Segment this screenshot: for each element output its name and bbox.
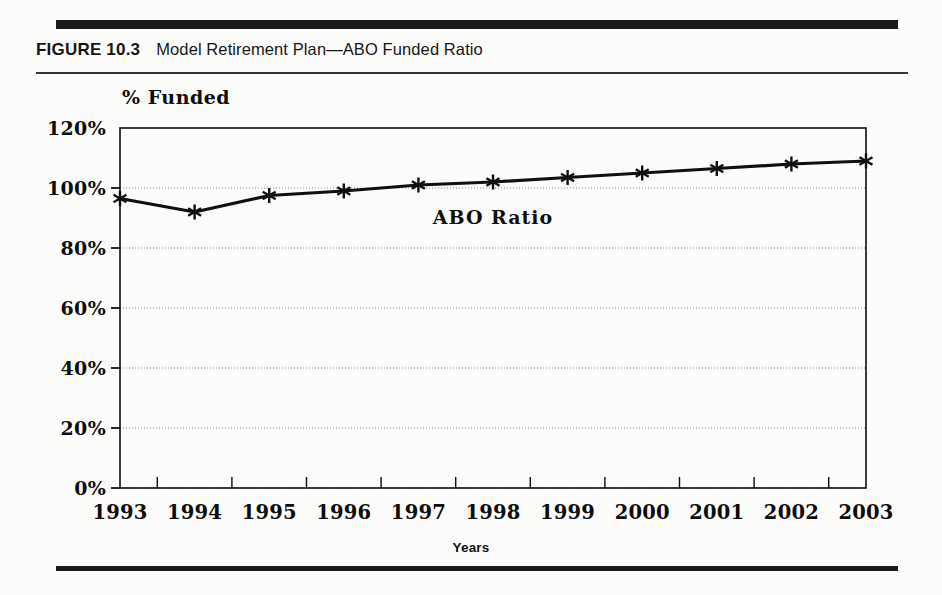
x-tick-label: 1993 (92, 501, 147, 524)
x-tick-label: 2002 (764, 501, 819, 524)
caption-divider (36, 72, 908, 74)
line-chart: 0%20%40%60%80%100%120% 19931994199519961… (0, 78, 942, 558)
chart-container: % Funded 0%20%40%60%80%100%120% 19931994… (0, 78, 942, 558)
series-annotation: ABO Ratio (432, 206, 554, 228)
x-tick-label: 1995 (242, 501, 297, 524)
y-tick-label: 120% (47, 117, 106, 139)
gridlines (120, 188, 866, 488)
top-rule (56, 20, 898, 29)
y-tick-label: 0% (74, 477, 106, 499)
x-axis-title: Years (0, 540, 942, 555)
series-label: ABO Ratio (432, 206, 554, 228)
x-axis-tick-labels: 1993199419951996199719981999200020012002… (92, 501, 893, 524)
y-tick-label: 60% (61, 297, 106, 319)
x-tick-label: 2003 (838, 501, 893, 524)
figure-title: Model Retirement Plan—ABO Funded Ratio (156, 40, 483, 58)
y-axis-ticks (111, 188, 120, 488)
y-tick-label: 80% (61, 237, 106, 259)
y-axis-tick-labels: 0%20%40%60%80%100%120% (47, 117, 106, 499)
x-tick-label: 1997 (391, 501, 446, 524)
y-tick-label: 20% (61, 417, 106, 439)
x-tick-label: 1999 (540, 501, 595, 524)
x-tick-label: 1998 (465, 501, 520, 524)
x-tick-label: 2000 (615, 501, 670, 524)
figure-caption: FIGURE 10.3Model Retirement Plan—ABO Fun… (36, 40, 916, 64)
x-axis-ticks (157, 477, 828, 488)
figure-number: FIGURE 10.3 (36, 40, 140, 59)
x-tick-label: 1996 (316, 501, 371, 524)
y-tick-label: 40% (61, 357, 106, 379)
bottom-rule (56, 566, 898, 571)
y-tick-label: 100% (47, 177, 106, 199)
figure-page: FIGURE 10.3Model Retirement Plan—ABO Fun… (0, 0, 942, 595)
x-tick-label: 1994 (167, 501, 222, 524)
x-tick-label: 2001 (689, 501, 744, 524)
